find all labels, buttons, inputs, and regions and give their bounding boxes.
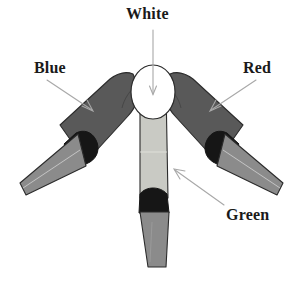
label-green: Green (226, 207, 269, 223)
label-red: Red (243, 60, 271, 76)
label-blue: Blue (34, 60, 66, 76)
center-limb-band (139, 188, 169, 213)
label-white: White (126, 6, 169, 22)
gripper-diagram (0, 0, 303, 284)
figure-canvas: White Blue Red Green (0, 0, 303, 284)
